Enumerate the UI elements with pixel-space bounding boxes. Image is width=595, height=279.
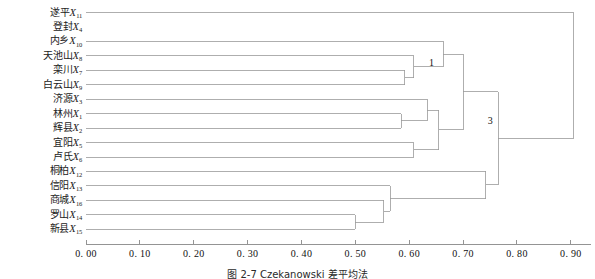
x-tick-label-0: 0. 00 [75,248,97,259]
cluster-number-1: 1 [429,57,434,68]
leaf-label-name: 济源 [53,93,73,104]
leaf-label-x3: 济源X3 [53,94,82,105]
x-tick-label-2: 0. 20 [183,248,205,259]
x-tick-label-4: 0. 40 [291,248,313,259]
leaf-label-subscript: 4 [79,26,82,33]
leaf-label-x8: 天池山X8 [43,51,82,62]
leaf-label-name: 辉县 [53,122,73,133]
leaf-label-x9: 白云山X9 [43,80,82,91]
leaf-label-name: 卢氏 [53,151,73,162]
leaf-label-column: 遂平X11登封X4内乡X10天池山X8栾川X7白云山X9济源X3林州X1辉县X2… [0,0,84,244]
leaf-label-name: 新县 [50,223,70,234]
leaf-label-x4: 登封X4 [53,22,82,33]
leaf-label-subscript: 9 [79,84,82,91]
dendrogram-lines [86,13,574,230]
x-axis [86,240,591,244]
cluster-number-3: 3 [488,115,493,126]
leaf-label-name: 天池山 [43,50,73,61]
leaf-label-name: 栾川 [53,64,73,75]
x-tick-label-7: 0. 70 [452,248,474,259]
leaf-label-name: 桐柏 [50,165,70,176]
leaf-label-x10: 内乡X10 [50,36,82,47]
leaf-label-x16: 商城X16 [50,195,82,206]
leaf-label-name: 遂平 [50,6,70,17]
leaf-label-subscript: 5 [79,141,82,148]
leaf-label-subscript: 8 [79,55,82,62]
leaf-label-subscript: 1 [79,113,82,120]
leaf-label-name: 宜阳 [53,136,73,147]
leaf-label-name: 登封 [53,21,73,32]
leaf-label-name: 内乡 [50,35,70,46]
leaf-label-x7: 栾川X7 [53,65,82,76]
leaf-label-name: 白云山 [43,79,73,90]
leaf-label-name: 罗山 [50,209,70,220]
leaf-label-name: 林州 [53,107,73,118]
leaf-label-x1: 林州X1 [53,108,82,119]
leaf-label-x12: 桐柏X12 [50,166,82,177]
leaf-label-name: 信阳 [50,180,70,191]
leaf-label-x11: 遂平X11 [50,7,82,18]
leaf-label-x2: 辉县X2 [53,123,82,134]
figure-caption: 图 2-7 Czekanowski 差平均法 [0,266,595,279]
x-tick-label-9: 0. 90 [560,248,582,259]
leaf-label-subscript: 15 [76,228,82,235]
x-tick-label-3: 0. 30 [237,248,259,259]
leaf-label-x14: 罗山X14 [50,210,82,221]
leaf-label-subscript: 6 [79,156,82,163]
dendrogram-svg [84,0,595,279]
leaf-label-name: 商城 [50,194,70,205]
leaf-label-subscript: 3 [79,98,82,105]
leaf-label-x5: 宜阳X5 [53,137,82,148]
dendrogram-figure: 遂平X11登封X4内乡X10天池山X8栾川X7白云山X9济源X3林州X1辉县X2… [0,0,595,279]
leaf-label-subscript: 14 [76,214,82,221]
leaf-label-subscript: 12 [76,170,82,177]
leaf-label-subscript: 11 [76,11,82,18]
dendrogram-plot-area [84,0,595,279]
leaf-label-subscript: 7 [79,69,82,76]
x-tick-label-8: 0. 80 [506,248,528,259]
leaf-label-subscript: 2 [79,127,82,134]
leaf-label-subscript: 10 [76,40,82,47]
leaf-label-x13: 信阳X13 [50,181,82,192]
x-tick-label-5: 0. 50 [345,248,367,259]
leaf-label-subscript: 13 [76,185,82,192]
leaf-label-x15: 新县X15 [50,224,82,235]
leaf-label-x6: 卢氏X6 [53,152,82,163]
leaf-label-subscript: 16 [76,199,82,206]
x-tick-label-1: 0. 10 [129,248,151,259]
x-tick-label-6: 0. 60 [398,248,420,259]
